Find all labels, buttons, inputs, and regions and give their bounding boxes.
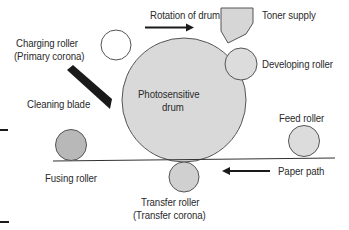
paper-path-arrow-head-icon	[222, 167, 230, 175]
fusing-roller-label: Fusing roller	[45, 172, 97, 184]
cleaning-blade-label: Cleaning blade	[27, 98, 90, 110]
feed-roller	[289, 126, 320, 157]
fusing-roller	[56, 130, 87, 161]
transfer-roller-label-1: Transfer roller	[141, 196, 199, 208]
toner-supply-label: Toner supply	[262, 9, 316, 21]
feed-roller-label: Feed roller	[279, 112, 324, 124]
rotation-arrow-head-icon	[186, 24, 194, 32]
charging-roller	[101, 30, 131, 60]
toner-supply-hopper	[221, 8, 253, 43]
charging-roller-label-2: (Primary corona)	[14, 50, 84, 62]
transfer-roller	[169, 162, 199, 192]
charging-roller-label-1: Charging roller	[16, 37, 78, 49]
paper-path-label: Paper path	[278, 165, 324, 177]
developing-roller	[225, 48, 257, 80]
rotation-label: Rotation of drum	[150, 9, 220, 21]
transfer-roller-label-2: (Transfer corona)	[133, 209, 206, 221]
developing-roller-label: Developing roller	[262, 58, 333, 70]
drum-label-1: Photosensitive	[138, 88, 200, 100]
drum-label-2: drum	[162, 101, 184, 113]
